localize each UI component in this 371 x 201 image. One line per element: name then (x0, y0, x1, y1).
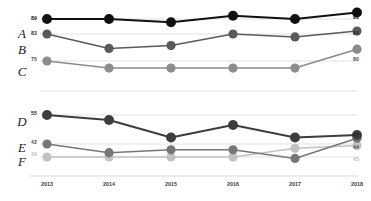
data-point-c-2013 (42, 56, 51, 65)
data-point-b-2014 (104, 44, 113, 53)
data-point-b-2016 (228, 29, 237, 38)
series-markers (42, 8, 362, 164)
series-line-d (47, 115, 357, 138)
data-point-d-2015 (166, 133, 176, 143)
data-point-c-2018 (352, 45, 361, 54)
data-point-e-2016 (228, 145, 237, 154)
series-label-c: C (14, 65, 30, 78)
data-point-c-2016 (228, 63, 237, 72)
x-tick-2013: 2013 (27, 182, 67, 187)
end-value-c: 80 (353, 57, 359, 62)
series-lines (47, 13, 357, 159)
data-point-d-2013 (42, 110, 52, 120)
end-value-b: 84 (353, 31, 359, 36)
data-point-d-2014 (104, 115, 114, 125)
series-label-b: B (14, 43, 30, 56)
series-line-c (47, 49, 357, 68)
data-point-b-2013 (42, 29, 51, 38)
end-value-f: 43 (353, 157, 359, 162)
data-point-e-2015 (166, 145, 175, 154)
x-tick-2015: 2015 (151, 182, 191, 187)
series-line-a (47, 13, 357, 23)
start-value-a: 89 (31, 16, 37, 21)
data-point-d-2016 (228, 120, 238, 130)
data-point-a-2017 (290, 14, 300, 24)
data-point-b-2017 (290, 32, 299, 41)
chart-plot-area (0, 0, 371, 201)
data-point-a-2014 (104, 14, 114, 24)
data-point-f-2013 (42, 152, 51, 161)
data-point-a-2015 (166, 17, 176, 27)
end-value-e: 44 (353, 145, 359, 150)
start-value-f: 39 (31, 152, 37, 157)
series-label-a: A (14, 27, 30, 40)
data-point-e-2014 (104, 148, 113, 157)
data-point-a-2013 (42, 14, 52, 24)
series-label-e: E (14, 141, 30, 154)
start-value-c: 75 (31, 57, 37, 62)
data-point-f-2017 (290, 144, 299, 153)
start-value-b: 83 (31, 31, 37, 36)
data-point-a-2016 (228, 11, 238, 21)
slope-chart: A B C D E F 89 83 75 55 42 39 91 84 80 4… (0, 0, 371, 201)
data-point-c-2015 (166, 63, 175, 72)
end-value-a: 91 (353, 15, 359, 20)
end-value-d: 47 (353, 133, 359, 138)
data-point-c-2017 (290, 63, 299, 72)
data-point-e-2017 (290, 154, 299, 163)
data-point-b-2015 (166, 41, 175, 50)
x-tick-2017: 2017 (275, 182, 315, 187)
series-label-d: D (14, 115, 30, 128)
data-point-c-2014 (104, 63, 113, 72)
start-value-e: 42 (31, 140, 37, 145)
x-tick-2016: 2016 (213, 182, 253, 187)
data-point-e-2013 (42, 139, 51, 148)
x-tick-2018: 2018 (337, 182, 371, 187)
start-value-d: 55 (31, 111, 37, 116)
series-label-f: F (14, 155, 30, 168)
data-point-d-2017 (290, 133, 300, 143)
x-tick-2014: 2014 (89, 182, 129, 187)
